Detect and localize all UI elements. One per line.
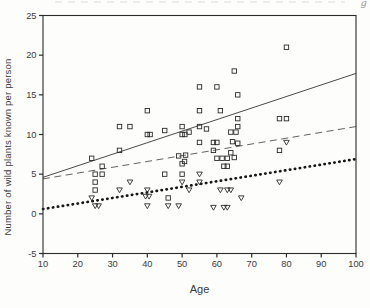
square-marker (145, 109, 149, 113)
square-marker (100, 164, 104, 168)
square-marker (225, 156, 229, 160)
x-axis-label: Age (43, 283, 356, 295)
square-marker (229, 130, 233, 134)
triangle-down-marker (176, 204, 182, 209)
plot-area: -50510152025102030405060708090100 (0, 0, 370, 308)
square-marker (197, 109, 201, 113)
x-tick-label: 70 (246, 259, 256, 269)
triangle-down-marker (277, 180, 283, 185)
square-marker (93, 188, 97, 192)
square-marker (89, 156, 93, 160)
x-tick-label: 60 (212, 259, 222, 269)
square-marker (117, 124, 121, 128)
square-marker (236, 116, 240, 120)
triangle-down-marker (211, 205, 217, 210)
triangle-down-marker (89, 196, 95, 201)
square-marker (100, 172, 104, 176)
figure-scatter-plot: g -50510152025102030405060708090100 Numb… (0, 0, 370, 308)
square-marker (128, 124, 132, 128)
x-tick-label: 10 (38, 259, 48, 269)
y-tick-label: 15 (26, 90, 36, 100)
square-marker (236, 124, 240, 128)
y-tick-label: 10 (26, 130, 36, 140)
square-marker (197, 140, 201, 144)
square-marker (232, 155, 236, 159)
square-marker (215, 85, 219, 89)
triangle-down-marker (145, 188, 151, 193)
x-tick-label: 20 (73, 259, 83, 269)
square-marker (93, 172, 97, 176)
triangle-down-marker (218, 188, 224, 193)
square-marker (229, 151, 233, 155)
triangle-down-marker (179, 180, 185, 185)
square-marker (180, 132, 184, 136)
square-marker (284, 45, 288, 49)
square-marker (166, 196, 170, 200)
square-marker (277, 116, 281, 120)
y-tick-label: -5 (28, 249, 36, 259)
x-tick-label: 30 (107, 259, 117, 269)
x-tick-label: 80 (281, 259, 291, 269)
x-tick-label: 90 (316, 259, 326, 269)
square-marker (232, 69, 236, 73)
square-marker (234, 130, 238, 134)
y-tick-label: 5 (31, 169, 36, 179)
square-marker (220, 156, 224, 160)
x-tick-label: 50 (177, 259, 187, 269)
square-marker (218, 109, 222, 113)
triangle-down-marker (238, 196, 244, 201)
y-tick-label: 20 (26, 50, 36, 60)
dashed-regression-line (43, 127, 356, 179)
square-marker (180, 172, 184, 176)
square-marker (197, 85, 201, 89)
triangle-down-marker (197, 172, 203, 177)
square-marker (145, 132, 149, 136)
triangle-down-marker (186, 188, 192, 193)
triangle-down-marker (117, 188, 123, 193)
triangle-down-marker (284, 140, 290, 145)
square-marker (180, 124, 184, 128)
y-tick-label: 0 (31, 209, 36, 219)
y-axis-label: Number of wild plants known per person (2, 27, 16, 267)
y-tick-label: 25 (26, 11, 36, 21)
triangle-down-marker (145, 204, 151, 209)
x-tick-label: 40 (142, 259, 152, 269)
square-marker (163, 128, 167, 132)
triangle-down-marker (165, 204, 171, 209)
triangle-down-marker (127, 180, 133, 185)
square-marker (236, 141, 240, 145)
square-marker (163, 172, 167, 176)
square-marker (215, 156, 219, 160)
square-marker (93, 180, 97, 184)
square-marker (236, 93, 240, 97)
square-marker (284, 116, 288, 120)
square-marker (148, 132, 152, 136)
square-marker (277, 148, 281, 152)
square-marker (204, 127, 208, 131)
x-tick-label: 100 (348, 259, 364, 269)
square-marker (230, 139, 234, 143)
